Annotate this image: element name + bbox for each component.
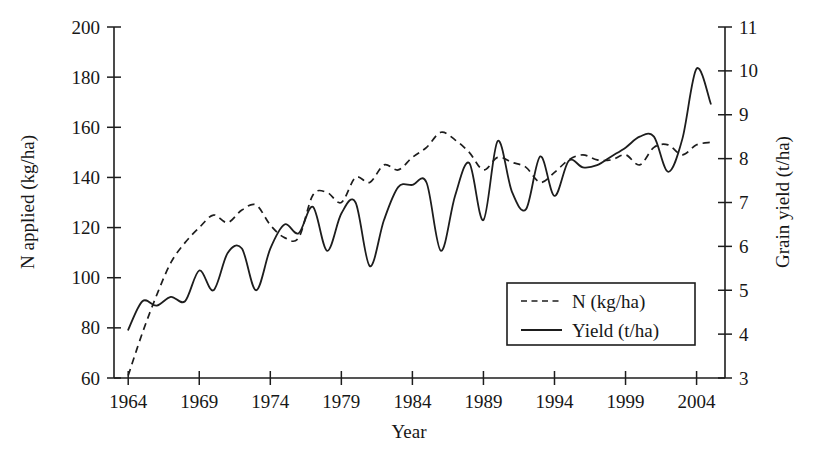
x-tick-label: 1964 <box>109 391 148 412</box>
left-tick-label: 140 <box>72 167 101 188</box>
left-tick-label: 160 <box>72 117 101 138</box>
left-tick-label: 120 <box>72 217 101 238</box>
chart-figure: 6080100120140160180200 34567891011 19641… <box>0 0 819 461</box>
y-axis-title-right: Grain yield (t/ha) <box>772 136 794 268</box>
bottom-axis-ticks: 196419691974197919841989199419992004 <box>109 371 716 412</box>
left-tick-label: 200 <box>72 17 101 38</box>
legend: N (kg/ha) Yield (t/ha) <box>507 283 695 345</box>
x-axis-title: Year <box>391 421 427 442</box>
x-tick-label: 1994 <box>535 391 574 412</box>
right-tick-label: 7 <box>739 192 749 213</box>
left-tick-label: 100 <box>72 267 101 288</box>
x-tick-label: 1974 <box>251 391 290 412</box>
x-tick-label: 1984 <box>393 391 432 412</box>
right-tick-label: 3 <box>739 368 749 389</box>
legend-label-n: N (kg/ha) <box>572 291 645 313</box>
right-tick-label: 10 <box>739 60 758 81</box>
x-tick-label: 1989 <box>464 391 502 412</box>
left-tick-label: 80 <box>81 317 100 338</box>
right-tick-label: 4 <box>739 324 749 345</box>
x-tick-label: 1969 <box>180 391 218 412</box>
right-tick-label: 5 <box>739 280 749 301</box>
left-tick-label: 60 <box>81 368 100 389</box>
left-tick-label: 180 <box>72 67 101 88</box>
x-tick-label: 1979 <box>322 391 360 412</box>
x-tick-label: 1999 <box>607 391 645 412</box>
line-chart: 6080100120140160180200 34567891011 19641… <box>0 0 819 461</box>
right-axis-ticks: 34567891011 <box>718 17 758 389</box>
right-tick-label: 6 <box>739 236 749 257</box>
right-tick-label: 11 <box>739 17 757 38</box>
legend-label-yield: Yield (t/ha) <box>572 320 659 342</box>
x-tick-label: 2004 <box>678 391 717 412</box>
y-axis-title-left: N applied (kg/ha) <box>17 135 39 269</box>
right-tick-label: 9 <box>739 104 749 125</box>
right-tick-label: 8 <box>739 148 749 169</box>
